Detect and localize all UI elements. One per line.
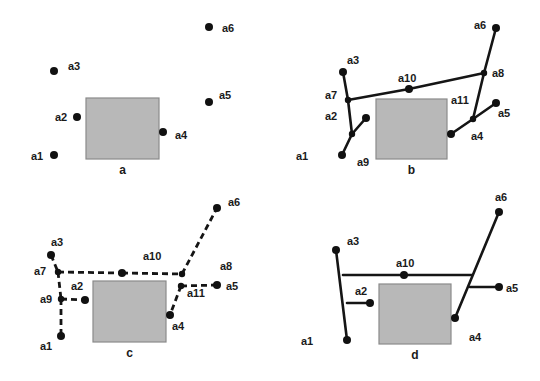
node-a3 bbox=[339, 68, 347, 76]
node-label-a2: a2 bbox=[71, 280, 83, 292]
edge-a11-a4 bbox=[170, 286, 181, 315]
node-a3 bbox=[50, 67, 58, 75]
node-label-a2: a2 bbox=[325, 110, 337, 122]
panel-caption: d bbox=[411, 348, 418, 362]
node-a8 bbox=[481, 70, 487, 76]
node-label-a6: a6 bbox=[474, 19, 486, 31]
edge-a7-a9 bbox=[58, 272, 61, 299]
edge-a10-a8 bbox=[122, 273, 182, 274]
node-label-a4: a4 bbox=[469, 331, 482, 343]
node-a2 bbox=[73, 113, 81, 121]
node-a6 bbox=[205, 23, 213, 31]
node-a10 bbox=[400, 271, 408, 279]
obstacle-rect bbox=[86, 98, 159, 159]
obstacle-rect bbox=[376, 99, 447, 159]
obstacle-rect bbox=[93, 281, 166, 342]
node-label-a1: a1 bbox=[301, 335, 313, 347]
edge-a11-a5 bbox=[181, 285, 217, 286]
node-label-a4: a4 bbox=[175, 129, 188, 141]
node-a11 bbox=[470, 116, 476, 122]
panel-a: a1a2a3a4a5a6a bbox=[31, 22, 234, 177]
node-label-a3: a3 bbox=[347, 54, 359, 66]
edge-a3-a7 bbox=[343, 72, 348, 100]
edge-a7-a10 bbox=[348, 89, 409, 100]
panel-d: a1a2a3a4a5a6a10d bbox=[301, 191, 518, 362]
node-label-a8: a8 bbox=[492, 67, 504, 79]
node-label-a6: a6 bbox=[222, 22, 234, 34]
node-a1 bbox=[338, 151, 346, 159]
edge-a7-a9 bbox=[348, 100, 352, 134]
figure-canvas: a1a2a3a4a5a6aa1a2a3a4a5a6a7a8a9a10a11ba1… bbox=[0, 0, 540, 381]
node-a4 bbox=[166, 311, 174, 319]
node-a2 bbox=[81, 296, 89, 304]
panel-b: a1a2a3a4a5a6a7a8a9a10a11b bbox=[296, 19, 510, 177]
node-label-a6: a6 bbox=[228, 196, 240, 208]
edge-a6-a4 bbox=[455, 212, 499, 318]
node-label-a3: a3 bbox=[51, 236, 63, 248]
node-a1 bbox=[57, 332, 65, 340]
node-label-a10: a10 bbox=[396, 257, 414, 269]
node-a6 bbox=[495, 208, 503, 216]
node-a3 bbox=[332, 246, 340, 254]
steiner-tree-figure: a1a2a3a4a5a6aa1a2a3a4a5a6a7a8a9a10a11ba1… bbox=[0, 0, 540, 381]
node-a1 bbox=[50, 151, 58, 159]
node-a5 bbox=[492, 99, 500, 107]
node-label-a5: a5 bbox=[219, 89, 231, 101]
node-a10 bbox=[118, 269, 126, 277]
node-label-a2: a2 bbox=[55, 111, 67, 123]
node-label-a5: a5 bbox=[226, 280, 238, 292]
edge-a8-a6 bbox=[182, 208, 217, 274]
node-label-a4: a4 bbox=[471, 130, 484, 142]
node-label-a10: a10 bbox=[143, 250, 161, 262]
node-label-a3: a3 bbox=[347, 235, 359, 247]
node-a7 bbox=[55, 269, 61, 275]
node-label-a9: a9 bbox=[357, 156, 369, 168]
node-a8 bbox=[179, 271, 185, 277]
node-a11 bbox=[178, 283, 184, 289]
node-a2 bbox=[366, 299, 374, 307]
node-a1 bbox=[343, 336, 351, 344]
node-label-a10: a10 bbox=[398, 72, 416, 84]
node-label-a7: a7 bbox=[325, 89, 337, 101]
node-label-a2: a2 bbox=[355, 285, 367, 297]
node-label-a1: a1 bbox=[31, 150, 43, 162]
node-label-a6: a6 bbox=[495, 191, 507, 203]
obstacle-rect bbox=[379, 284, 451, 344]
node-label-a3: a3 bbox=[68, 60, 80, 72]
node-label-a1: a1 bbox=[296, 150, 308, 162]
node-a9 bbox=[58, 296, 64, 302]
node-label-a7: a7 bbox=[34, 265, 46, 277]
edge-a7-a10 bbox=[58, 272, 122, 273]
node-label-a9: a9 bbox=[40, 293, 52, 305]
node-label-a11: a11 bbox=[187, 287, 205, 299]
node-a4 bbox=[451, 314, 459, 322]
node-label-a11: a11 bbox=[451, 94, 469, 106]
node-a10 bbox=[405, 85, 413, 93]
node-label-a5: a5 bbox=[506, 282, 518, 294]
node-a5 bbox=[495, 283, 503, 291]
node-a2 bbox=[362, 114, 370, 122]
node-a5 bbox=[213, 281, 221, 289]
panel-caption: a bbox=[119, 163, 126, 177]
edge-a3-a1 bbox=[336, 250, 347, 340]
panel-c: a1a2a3a4a5a6a7a8a9a10a11c bbox=[34, 196, 240, 360]
node-label-a4: a4 bbox=[172, 320, 185, 332]
node-label-a1: a1 bbox=[40, 340, 52, 352]
node-a4 bbox=[447, 130, 455, 138]
node-a9 bbox=[349, 131, 355, 137]
edge-a10-a8 bbox=[409, 73, 484, 89]
node-a5 bbox=[205, 98, 213, 106]
node-a6 bbox=[492, 24, 500, 32]
node-a4 bbox=[159, 128, 167, 136]
node-a6 bbox=[213, 204, 221, 212]
node-a3 bbox=[47, 251, 55, 259]
node-a7 bbox=[345, 97, 351, 103]
panel-caption: c bbox=[126, 346, 133, 360]
panel-caption: b bbox=[408, 163, 415, 177]
node-label-a5: a5 bbox=[498, 107, 510, 119]
node-label-a8: a8 bbox=[220, 260, 232, 272]
